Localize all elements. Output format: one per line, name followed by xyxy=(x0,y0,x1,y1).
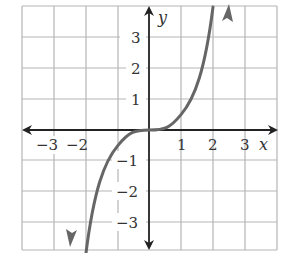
y-tick-2: 2 xyxy=(131,60,141,78)
y-axis-label: y xyxy=(157,8,168,27)
y-tick-1: 1 xyxy=(131,91,141,109)
y-tick-neg3: −3 xyxy=(116,214,138,232)
axes xyxy=(24,8,276,248)
arrow-up-icon xyxy=(222,4,233,22)
arrow-down-icon xyxy=(66,229,77,247)
y-tick-3: 3 xyxy=(131,29,141,47)
cubic-function-graph: −3 −2 1 2 3 x 3 2 1 −1 −2 −3 y xyxy=(0,0,285,253)
x-axis-label: x xyxy=(259,135,268,154)
x-tick-neg2: −2 xyxy=(66,136,88,154)
y-tick-neg2: −2 xyxy=(116,183,138,201)
x-tick-2: 2 xyxy=(208,136,218,154)
x-tick-1: 1 xyxy=(177,136,187,154)
y-tick-neg1: −1 xyxy=(116,152,138,170)
x-tick-3: 3 xyxy=(240,136,250,154)
x-tick-neg3: −3 xyxy=(36,136,58,154)
